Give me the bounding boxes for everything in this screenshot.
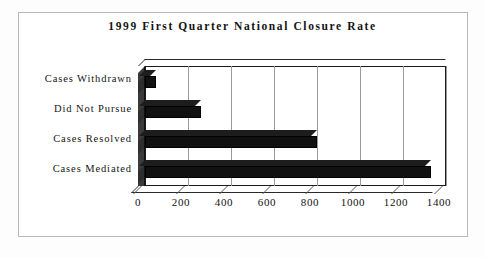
category-label: Cases Withdrawn [20, 73, 132, 84]
plot-area: 0200400600800100012001400 Cases Withdraw… [0, 0, 485, 258]
category-label: Cases Resolved [20, 133, 132, 144]
x-axis-tick-label: 0 [135, 196, 141, 208]
x-axis-tick-label: 600 [258, 196, 276, 208]
x-axis-tick-label: 800 [301, 196, 319, 208]
plot-top-face [138, 59, 446, 66]
x-axis-tick-label: 1400 [427, 196, 451, 208]
x-axis-tick-label: 1000 [341, 196, 365, 208]
bar [145, 106, 201, 118]
gridline [446, 66, 447, 186]
category-axis-labels: Cases WithdrawnDid Not PursueCases Resol… [20, 0, 132, 258]
x-axis-tick-label: 400 [215, 196, 233, 208]
bar [145, 166, 431, 178]
category-label: Did Not Pursue [20, 103, 132, 114]
bar [145, 76, 156, 88]
chart-page: 1999 First Quarter National Closure Rate… [0, 0, 485, 258]
bar [145, 136, 317, 148]
x-axis-tick-label: 1200 [384, 196, 408, 208]
category-label: Cases Mediated [20, 163, 132, 174]
x-axis-tick-label: 200 [172, 196, 190, 208]
